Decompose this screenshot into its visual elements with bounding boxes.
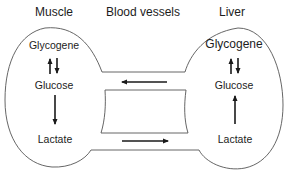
muscle-node-lactate: Lactate — [38, 134, 72, 145]
header-liver: Liver — [219, 6, 245, 18]
muscle-node-glycogene: Glycogene — [29, 40, 79, 51]
liver-node-lactate: Lactate — [218, 134, 252, 145]
cori-cycle-diagram: Muscle Blood vessels Liver Glycogene Glu… — [0, 0, 287, 178]
header-muscle: Muscle — [35, 6, 73, 18]
vessel-divider — [101, 90, 188, 133]
header-blood-vessels: Blood vessels — [106, 6, 180, 18]
liver-node-glucose: Glucose — [215, 80, 254, 91]
muscle-node-glucose: Glucose — [35, 80, 74, 91]
liver-node-glycogene: Glycogene — [205, 38, 262, 50]
